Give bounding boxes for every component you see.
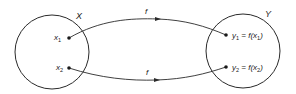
point-dot: [224, 33, 228, 37]
set-x-label: X: [75, 11, 83, 21]
arrow-curve: [69, 19, 226, 38]
point-x2: x2: [55, 63, 71, 73]
arrow-f-x1-y1: f: [69, 7, 226, 38]
arrowhead-icon: [154, 78, 160, 82]
set-y: Y: [206, 9, 280, 88]
point-y2: y2 = f(x2): [224, 63, 263, 73]
point-label-x1: x1: [53, 33, 61, 43]
set-y-label: Y: [265, 9, 272, 19]
point-dot: [67, 66, 71, 70]
arrow-label-f: f: [145, 7, 148, 16]
function-mapping-diagram: X Y f f x1 x2 y1 = f(x1) y2 = f(x2): [0, 0, 296, 94]
point-dot: [224, 65, 228, 69]
set-y-circle: [206, 14, 280, 88]
point-label-y2: y2 = f(x2): [231, 63, 263, 73]
point-label-x2: x2: [55, 63, 63, 73]
arrow-f-x2-y2: f: [69, 67, 226, 82]
arrow-label-f: f: [146, 68, 149, 77]
arrowhead-icon: [155, 17, 161, 21]
set-x-circle: [15, 15, 89, 89]
set-x: X: [15, 11, 89, 89]
point-y1: y1 = f(x1): [224, 31, 263, 41]
point-x1: x1: [53, 33, 71, 43]
point-dot: [67, 36, 71, 40]
point-label-y1: y1 = f(x1): [231, 31, 263, 41]
